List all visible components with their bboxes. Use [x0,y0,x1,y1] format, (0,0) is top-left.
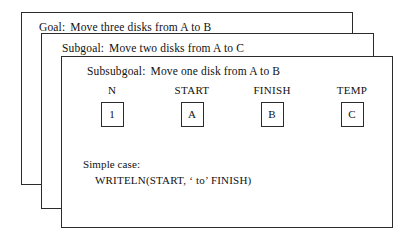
goal-card-title: Goal:Move three disks from A to B [39,22,211,34]
column-value-box-start: A [181,102,204,127]
goal-card-label: Goal: [39,21,65,33]
subsubgoal-card-title: Subsubgoal:Move one disk from A to B [87,66,280,78]
column-value-box-n: 1 [101,102,124,127]
column-header-finish: FINISH [253,85,290,96]
goal-card-text: Move three disks from A to B [70,21,211,33]
column-header-n: N [108,85,116,96]
subgoal-card-text: Move two disks from A to C [109,42,244,54]
column-header-temp: TEMP [337,85,368,96]
simple-case-label: Simple case: [83,157,251,173]
subsubgoal-card-text: Move one disk from A to B [151,65,281,77]
column-value-box-finish: B [261,102,284,127]
subsubgoal-card-label: Subsubgoal: [87,65,146,77]
parameter-column-start: START A [164,85,220,127]
parameter-columns: N 1 START A FINISH B TEMP C [84,85,380,147]
subsubgoal-card: Subsubgoal:Move one disk from A to B N 1… [61,56,393,228]
parameter-column-temp: TEMP C [324,85,380,127]
parameter-column-n: N 1 [84,85,140,127]
subgoal-card-label: Subgoal: [62,42,104,54]
column-value-box-temp: C [341,102,364,127]
parameter-column-finish: FINISH B [244,85,300,127]
subgoal-card-title: Subgoal:Move two disks from A to C [62,43,244,55]
column-header-start: START [175,85,210,96]
simple-case-block: Simple case: WRITELN(START, ‘ to’ FINISH… [83,157,251,189]
diagram-canvas: Goal:Move three disks from A to B Subgoa… [0,0,414,244]
simple-case-code: WRITELN(START, ‘ to’ FINISH) [95,173,251,189]
